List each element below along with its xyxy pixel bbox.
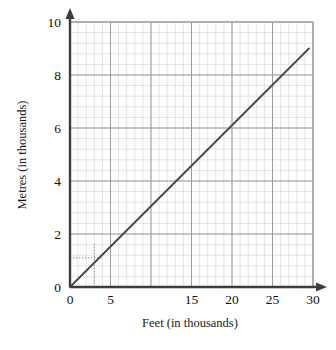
- axes: [65, 8, 327, 292]
- y-axis-title: Metres (in thousands): [15, 100, 29, 209]
- construction-lines: [70, 244, 103, 287]
- y-tick-label-6: 6: [54, 121, 61, 136]
- line-chart: 0515202530 0246810 Feet (in thousands) M…: [0, 0, 336, 350]
- x-tick-label-5: 5: [107, 292, 114, 307]
- x-tick-label-20: 20: [225, 292, 239, 307]
- x-tick-label-0: 0: [67, 292, 74, 307]
- y-tick-label-4: 4: [54, 174, 61, 189]
- y-axis-tick-labels: 0246810: [48, 15, 62, 295]
- x-axis-title: Feet (in thousands): [142, 316, 238, 330]
- x-axis-tick-labels: 0515202530: [67, 292, 320, 307]
- major-gridlines: [70, 22, 313, 287]
- y-tick-label-10: 10: [48, 15, 62, 30]
- data-line-series: [70, 49, 309, 288]
- x-tick-label-15: 15: [185, 292, 199, 307]
- y-tick-label-2: 2: [54, 227, 61, 242]
- x-tick-label-25: 25: [266, 292, 280, 307]
- x-tick-label-30: 30: [306, 292, 320, 307]
- chart-container: 0515202530 0246810 Feet (in thousands) M…: [0, 0, 336, 350]
- y-tick-label-8: 8: [54, 68, 61, 83]
- y-tick-label-0: 0: [54, 280, 61, 295]
